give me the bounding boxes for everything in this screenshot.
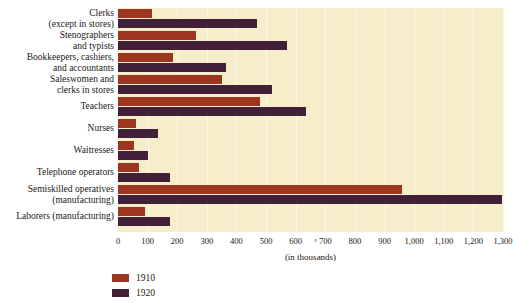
bar-1910 xyxy=(118,31,196,40)
x-tick-label: 100 xyxy=(141,236,154,246)
bar-1920 xyxy=(118,129,158,138)
x-tick-label: 1,100 xyxy=(434,236,453,246)
category-label: Telephone operators xyxy=(0,167,114,178)
category-label: Laborers (manufacturing) xyxy=(0,211,114,222)
x-tick-label: 900 xyxy=(378,236,391,246)
category-label-line: Telephone operators xyxy=(37,167,114,177)
bar-group xyxy=(118,30,503,52)
category-label: Bookkeepers, cashiers,and accountants xyxy=(0,52,114,73)
category-label: Saleswomen andclerks in stores xyxy=(0,74,114,95)
x-tick-label: 400 xyxy=(230,236,243,246)
chart-legend: 19101920 xyxy=(112,271,272,301)
x-tick-label: 300 xyxy=(200,236,213,246)
x-tick-label: 200 xyxy=(171,236,184,246)
legend-swatch xyxy=(112,274,129,282)
bar-1920 xyxy=(118,151,148,160)
bar-1920 xyxy=(118,63,226,72)
category-label-line: and accountants xyxy=(0,63,114,74)
bar-group xyxy=(118,162,503,184)
category-label-line: Laborers (manufacturing) xyxy=(16,211,114,221)
x-tick-label: 800 xyxy=(349,236,362,246)
category-label-line: Nurses xyxy=(88,123,114,133)
category-label-line: (manufacturing) xyxy=(0,195,114,206)
bar-group xyxy=(118,206,503,228)
bar-1920 xyxy=(118,41,287,50)
category-label: Nurses xyxy=(0,123,114,134)
bar-1910 xyxy=(118,185,402,194)
legend-item: 1920 xyxy=(112,286,272,299)
legend-item: 1910 xyxy=(112,271,272,284)
category-label-line: Semiskilled operatives xyxy=(28,184,114,194)
x-tick-label: 600 xyxy=(289,236,302,246)
legend-label: 1910 xyxy=(136,273,155,283)
category-label-line: Clerks xyxy=(89,8,114,18)
bar-1920 xyxy=(118,173,170,182)
bar-1910 xyxy=(118,163,139,172)
bar-1910 xyxy=(118,75,222,84)
bar-1910 xyxy=(118,97,260,106)
category-label: Teachers xyxy=(0,101,114,112)
bar-1910 xyxy=(118,9,152,18)
category-label: Semiskilled operatives(manufacturing) xyxy=(0,184,114,205)
bar-1920 xyxy=(118,85,272,94)
category-label: Stenographersand typists xyxy=(0,30,114,51)
bar-group xyxy=(118,184,503,206)
x-tick-label: 1,200 xyxy=(464,236,483,246)
category-label: Clerks(except in stores) xyxy=(0,8,114,29)
gridline xyxy=(503,8,504,232)
bar-1920 xyxy=(118,195,502,204)
category-label: Waitresses xyxy=(0,145,114,156)
category-label-line: Teachers xyxy=(80,101,114,111)
bar-group xyxy=(118,140,503,162)
x-axis-title: (in thousands) xyxy=(118,252,503,262)
bars-layer xyxy=(118,8,503,232)
bar-group xyxy=(118,96,503,118)
category-label-line: Waitresses xyxy=(74,145,114,155)
bar-1920 xyxy=(118,217,170,226)
bar-1910 xyxy=(118,141,134,150)
category-labels: Clerks(except in stores)Stenographersand… xyxy=(0,8,114,232)
stray-degree-mark: ° xyxy=(314,238,317,247)
category-label-line: Stenographers xyxy=(60,30,114,40)
bar-group xyxy=(118,8,503,30)
bar-group xyxy=(118,74,503,96)
category-label-line: and typists xyxy=(0,41,114,52)
x-tick-label: 1,000 xyxy=(405,236,424,246)
x-tick-label: 0 xyxy=(116,236,120,246)
x-axis-ticks: 01002003004005006007008009001,0001,1001,… xyxy=(118,236,503,250)
legend-label: 1920 xyxy=(136,288,155,298)
category-label-line: clerks in stores xyxy=(0,85,114,96)
category-label-line: Saleswomen and xyxy=(50,74,114,84)
bar-1920 xyxy=(118,19,257,28)
bar-1920 xyxy=(118,107,306,116)
x-tick-label: 1,300 xyxy=(493,236,512,246)
bar-1910 xyxy=(118,53,173,62)
category-label-line: (except in stores) xyxy=(0,19,114,30)
bar-group xyxy=(118,118,503,140)
x-tick-label: 500 xyxy=(260,236,273,246)
bar-group xyxy=(118,52,503,74)
bar-1910 xyxy=(118,119,136,128)
bar-1910 xyxy=(118,207,145,216)
legend-swatch xyxy=(112,289,129,297)
category-label-line: Bookkeepers, cashiers, xyxy=(27,52,114,62)
x-tick-label: 700 xyxy=(319,236,332,246)
